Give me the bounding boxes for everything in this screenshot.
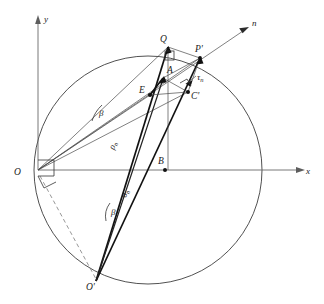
label-group: y x n O Q P' A E C' B O' ρn σn τn β (14, 14, 310, 292)
point-marker-e (148, 93, 152, 97)
point-label-b: B (158, 156, 164, 166)
point-marker-b (163, 168, 167, 172)
point-label-e: E (138, 85, 145, 95)
bold-ray-group (96, 47, 200, 281)
point-label-o: O (14, 167, 21, 177)
axis-label-x: x (305, 166, 310, 176)
figure-root: y x n O Q P' A E C' B O' ρn σn τn β (0, 0, 324, 304)
arrowhead-at-a (159, 76, 166, 84)
beta-arc-lower (105, 203, 110, 221)
x-axis-arrowhead (296, 167, 305, 173)
point-label-oprime: O' (86, 282, 96, 292)
stress-construction-diagram: y x n O Q P' A E C' B O' ρn σn τn β (0, 0, 324, 304)
angle-label-beta-lower: β (110, 207, 116, 217)
vector-label-sigma-n: σn (118, 188, 131, 199)
axis-group (35, 15, 305, 173)
y-axis-arrowhead (35, 15, 41, 24)
axis-label-y: y (43, 14, 48, 24)
dashed-line-o-oprime (40, 176, 96, 279)
point-label-a: A (166, 65, 173, 75)
chord-o-pprime (38, 58, 200, 170)
vector-label-tau-n: τn (197, 72, 203, 83)
point-label-q: Q (160, 34, 167, 44)
point-marker-cprime (186, 90, 190, 94)
segment-a-cprime (163, 78, 188, 92)
arrowhead-at-q (165, 46, 172, 55)
point-label-cprime: C' (191, 91, 200, 101)
angle-label-beta-upper: β (98, 108, 104, 118)
axis-label-n: n (252, 18, 257, 28)
vector-label-rho-n: ρn (106, 140, 119, 152)
point-label-pprime: P' (194, 44, 204, 54)
point-marker-pprime (198, 56, 202, 60)
ray-oprime-pprime (96, 58, 200, 281)
ray-oprime-a (96, 79, 163, 281)
